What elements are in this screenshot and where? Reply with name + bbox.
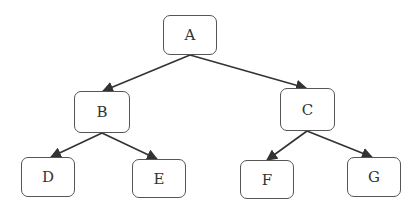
tree-diagram: A B C D E F G: [0, 0, 420, 208]
node-e-label: E: [154, 170, 165, 188]
edge-b-e: [102, 133, 157, 159]
node-c-label: C: [302, 101, 313, 119]
node-b: B: [74, 91, 130, 133]
edge-a-b: [103, 55, 190, 91]
node-d: D: [21, 157, 75, 197]
node-f-label: F: [262, 171, 272, 189]
node-a: A: [163, 15, 217, 55]
node-b-label: B: [96, 103, 107, 121]
node-c: C: [280, 88, 335, 131]
node-g-label: G: [368, 168, 380, 186]
edge-b-d: [51, 133, 102, 157]
node-d-label: D: [42, 168, 54, 186]
node-a-label: A: [185, 26, 196, 44]
edge-c-f: [267, 131, 307, 160]
node-f: F: [240, 160, 294, 199]
edge-c-g: [307, 131, 372, 157]
node-g: G: [347, 157, 401, 197]
node-e: E: [132, 159, 186, 198]
edge-a-c: [190, 55, 306, 88]
